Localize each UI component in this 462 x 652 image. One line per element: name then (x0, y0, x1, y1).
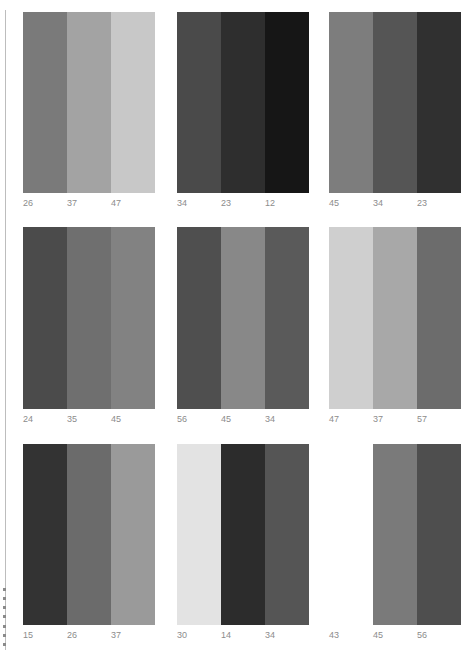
color-stripe (329, 227, 373, 409)
swatch-value-label: 43 (329, 630, 339, 640)
color-stripe (67, 227, 111, 409)
swatch-value-label: 34 (373, 198, 383, 208)
swatch-value-label: 26 (67, 630, 77, 640)
swatch-value-label: 30 (177, 630, 187, 640)
color-stripe (417, 227, 461, 409)
color-stripe (329, 12, 373, 193)
swatch-value-label: 12 (265, 198, 275, 208)
swatch-panel-r2-c3 (329, 227, 461, 409)
color-stripe (111, 227, 155, 409)
swatch-value-label: 45 (221, 414, 231, 424)
swatch-value-label: 23 (417, 198, 427, 208)
swatch-panel-r1-c3 (329, 12, 461, 193)
swatch-value-label: 15 (23, 630, 33, 640)
color-stripe (373, 444, 417, 625)
swatch-value-label: 34 (265, 630, 275, 640)
color-stripe (373, 12, 417, 193)
swatch-panel-r1-c1 (23, 12, 155, 193)
swatch-panel-r2-c2 (177, 227, 309, 409)
color-stripe (373, 227, 417, 409)
swatch-value-label: 57 (417, 414, 427, 424)
color-stripe (329, 444, 373, 625)
swatch-value-label: 26 (23, 198, 33, 208)
color-stripe (417, 12, 461, 193)
side-page-marker (0, 588, 8, 646)
left-margin-rule (5, 10, 6, 650)
swatch-value-label: 47 (111, 198, 121, 208)
swatch-value-label: 37 (373, 414, 383, 424)
color-stripe (67, 444, 111, 625)
color-stripe (177, 444, 221, 625)
swatch-value-label: 45 (111, 414, 121, 424)
swatch-value-label: 56 (417, 630, 427, 640)
swatch-value-label: 45 (329, 198, 339, 208)
swatch-value-label: 14 (221, 630, 231, 640)
swatch-panel-r3-c1 (23, 444, 155, 625)
swatch-panel-r1-c2 (177, 12, 309, 193)
color-stripe (221, 444, 265, 625)
swatch-value-label: 34 (265, 414, 275, 424)
color-stripe (177, 12, 221, 193)
color-stripe (23, 444, 67, 625)
swatch-value-label: 37 (67, 198, 77, 208)
swatch-value-label: 45 (373, 630, 383, 640)
color-stripe (177, 227, 221, 409)
color-stripe (417, 444, 461, 625)
color-stripe (111, 444, 155, 625)
swatch-value-label: 35 (67, 414, 77, 424)
swatch-panel-r3-c2 (177, 444, 309, 625)
swatch-value-label: 34 (177, 198, 187, 208)
swatch-panel-r3-c3 (329, 444, 461, 625)
color-stripe (111, 12, 155, 193)
color-stripe (265, 227, 309, 409)
color-stripe (265, 444, 309, 625)
color-stripe (23, 12, 67, 193)
color-stripe (23, 227, 67, 409)
swatch-value-label: 37 (111, 630, 121, 640)
color-stripe (67, 12, 111, 193)
swatch-value-label: 23 (221, 198, 231, 208)
swatch-value-label: 47 (329, 414, 339, 424)
swatch-panel-r2-c1 (23, 227, 155, 409)
swatch-value-label: 24 (23, 414, 33, 424)
color-stripe (265, 12, 309, 193)
swatch-value-label: 56 (177, 414, 187, 424)
color-stripe (221, 12, 265, 193)
color-stripe (221, 227, 265, 409)
